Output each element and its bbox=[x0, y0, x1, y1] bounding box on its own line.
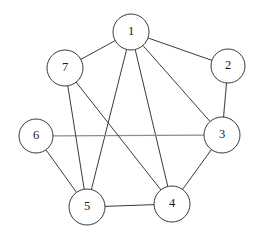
graph-svg-surface: 1234567 bbox=[0, 0, 257, 237]
graph-edge-5-6 bbox=[46, 150, 77, 193]
graph-edge-1-4 bbox=[135, 50, 168, 187]
graph-node-label-4: 4 bbox=[169, 196, 176, 210]
graph-edge-1-3 bbox=[143, 45, 210, 121]
graph-node-label-1: 1 bbox=[128, 24, 134, 38]
graph-node-label-2: 2 bbox=[225, 58, 231, 72]
graph-node-label-5: 5 bbox=[84, 199, 90, 213]
graph-edge-1-7 bbox=[81, 41, 115, 60]
node-layer: 1234567 bbox=[19, 14, 245, 225]
graph-node-4[interactable]: 4 bbox=[154, 186, 190, 222]
graph-node-1[interactable]: 1 bbox=[113, 14, 149, 50]
graph-node-7[interactable]: 7 bbox=[47, 50, 83, 86]
graph-edge-4-5 bbox=[105, 205, 154, 207]
graph-node-6[interactable]: 6 bbox=[19, 119, 53, 153]
graph-edge-1-2 bbox=[148, 38, 212, 60]
graph-diagram: 1234567 bbox=[0, 0, 257, 237]
graph-edge-5-7 bbox=[68, 86, 84, 189]
graph-edge-2-3 bbox=[224, 83, 227, 117]
graph-node-2[interactable]: 2 bbox=[211, 49, 245, 83]
graph-edge-1-5 bbox=[91, 49, 126, 189]
graph-node-label-3: 3 bbox=[219, 127, 225, 141]
graph-node-label-7: 7 bbox=[62, 60, 68, 74]
graph-node-5[interactable]: 5 bbox=[69, 189, 105, 225]
graph-node-label-6: 6 bbox=[33, 128, 39, 142]
graph-node-3[interactable]: 3 bbox=[204, 117, 240, 153]
graph-edge-3-4 bbox=[183, 150, 212, 190]
